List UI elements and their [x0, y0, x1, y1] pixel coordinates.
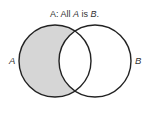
diagram-title: A: All A is B. [50, 9, 99, 19]
set-label-b: B [135, 55, 142, 66]
venn-diagram: A: All A is B. A B [0, 0, 147, 117]
set-label-a: A [8, 55, 15, 66]
